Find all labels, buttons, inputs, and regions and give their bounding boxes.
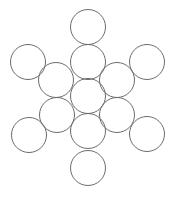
circle-bottom-outer: [71, 151, 106, 186]
circle-bottom-inner: [71, 114, 106, 149]
circle-lower-left-outer: [12, 118, 47, 153]
circle-lower-right-outer: [130, 117, 165, 152]
diagram-svg: [0, 0, 174, 203]
circle-pattern-diagram: [0, 0, 174, 203]
circle-upper-left-outer: [11, 45, 46, 80]
circle-top-outer: [71, 10, 106, 45]
circle-upper-right-outer: [130, 45, 165, 80]
circle-upper-left-inner: [39, 63, 74, 98]
circle-center: [71, 79, 106, 114]
